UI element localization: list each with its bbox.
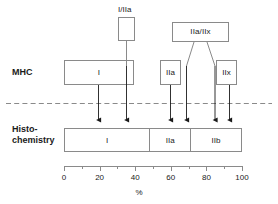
- caption-i-iia: I/IIa: [118, 5, 131, 15]
- axis-tick-50: [153, 166, 154, 169]
- axis-tick-10: [82, 166, 83, 169]
- box-mhc-iix-label: IIx: [222, 69, 231, 77]
- axis-tick-label-0: 0: [62, 173, 66, 182]
- axis-tick-80: [206, 166, 207, 171]
- axis-tick-label-60: 60: [166, 173, 175, 182]
- row-label-histochemistry-line1: Histo-: [12, 124, 38, 134]
- row-label-histochemistry: Histo- chemistry: [12, 124, 55, 146]
- box-mhc-iia-label: IIa: [166, 69, 175, 77]
- axis-tick-20: [100, 166, 101, 171]
- axis-tick-label-40: 40: [131, 173, 140, 182]
- axis-tick-40: [135, 166, 136, 171]
- axis-tick-label-100: 100: [235, 173, 248, 182]
- figure-canvas: MHC Histo- chemistry I/IIa IIa/IIx I IIa…: [0, 0, 278, 204]
- histo-seg-iib: IIb: [190, 129, 241, 151]
- box-mhc-iia: IIa: [160, 60, 181, 85]
- box-i-iia: [118, 17, 135, 41]
- axis-tick-0: [64, 166, 65, 171]
- axis-tick-label-80: 80: [202, 173, 211, 182]
- histo-seg-i: I: [65, 129, 149, 151]
- axis-tick-30: [117, 166, 118, 169]
- histo-seg-iia: IIa: [149, 129, 189, 151]
- box-iia-iix-label: IIa/IIx: [190, 28, 210, 36]
- row-label-histochemistry-line2: chemistry: [12, 135, 55, 145]
- box-mhc-i-label: I: [98, 69, 100, 77]
- axis-tick-90: [224, 166, 225, 169]
- row-label-mhc: MHC: [12, 67, 33, 77]
- histochemistry-bar: I IIa IIb: [64, 128, 242, 152]
- axis-tick-label-20: 20: [95, 173, 104, 182]
- box-mhc-iix: IIx: [216, 60, 237, 85]
- axis-tick-70: [189, 166, 190, 169]
- box-mhc-i: I: [64, 60, 134, 85]
- box-iia-iix: IIa/IIx: [172, 22, 229, 42]
- histo-seg-iib-label: IIb: [212, 136, 221, 145]
- axis-unit-label: %: [0, 188, 278, 198]
- axis-tick-60: [171, 166, 172, 171]
- histo-seg-i-label: I: [106, 136, 108, 145]
- axis-tick-100: [242, 166, 243, 171]
- histo-seg-iia-label: IIa: [166, 136, 175, 145]
